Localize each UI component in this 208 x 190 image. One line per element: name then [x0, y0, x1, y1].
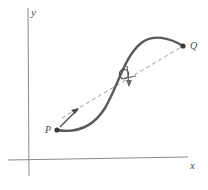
point-p-label: P	[45, 125, 51, 135]
figure-canvas: y x P Q	[0, 0, 208, 190]
point-q-dot	[180, 43, 185, 48]
point-q-label: Q	[190, 41, 197, 51]
x-axis-line	[8, 157, 188, 160]
tangent-arrow-head	[126, 80, 132, 87]
function-curve	[57, 38, 183, 131]
secant-direction-arrow-head	[71, 108, 79, 114]
point-p-dot	[54, 127, 59, 132]
y-axis-line	[28, 8, 29, 176]
figure-graphics	[0, 0, 208, 190]
x-axis-label: x	[190, 160, 195, 171]
secant-line-pq	[62, 46, 183, 118]
y-axis-label: y	[31, 7, 36, 18]
